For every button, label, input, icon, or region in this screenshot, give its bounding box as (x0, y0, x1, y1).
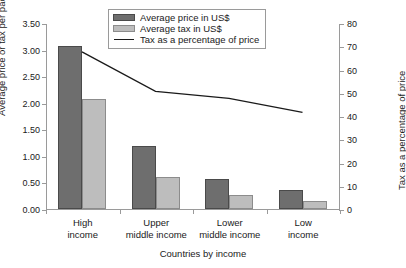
x-axis-title: Countries by income (0, 248, 406, 259)
right-tick (340, 47, 344, 48)
left-tick-label: 2.50 (22, 72, 40, 82)
left-tick-label: 0.50 (22, 178, 40, 188)
right-tick (340, 24, 344, 25)
right-tick-label: 30 (347, 135, 357, 145)
category-label-line: middle income (199, 229, 260, 241)
right-tick-label: 10 (347, 182, 357, 192)
legend-label-tax-percentage: Tax as a percentage of price (140, 34, 259, 45)
category-label-line: Low (288, 217, 319, 229)
category-label: Uppermiddle income (126, 217, 187, 241)
left-tick-label: 1.00 (22, 152, 40, 162)
category-label: Lowermiddle income (199, 217, 260, 241)
right-tick-label: 20 (347, 159, 357, 169)
legend-label-tax: Average tax in US$ (140, 23, 222, 34)
left-tick-label: 3.00 (22, 46, 40, 56)
category-label-line: income (288, 229, 319, 241)
legend-item-tax-percentage: Tax as a percentage of price (113, 34, 259, 45)
right-tick (340, 117, 344, 118)
y-axis-title-left: Average price or tax per pack (US$) (0, 0, 7, 116)
category-label-line: Upper (126, 217, 187, 229)
category-label-line: Lower (199, 217, 260, 229)
tax-percentage-polyline (82, 52, 303, 112)
x-tick (340, 210, 341, 214)
category-label: Highincome (67, 217, 98, 241)
legend-item-average-price: Average price in US$ (113, 12, 259, 23)
legend-swatch-price-icon (113, 14, 135, 21)
plot-area: 0.000.501.001.502.002.503.003.50 0102030… (46, 24, 340, 210)
right-tick-label: 80 (347, 19, 357, 29)
left-tick-label: 0.00 (22, 205, 40, 215)
right-tick (340, 140, 344, 141)
legend-swatch-line-icon (113, 36, 135, 43)
right-tick-label: 70 (347, 42, 357, 52)
y-axis-title-right: Tax as a percentage of price (396, 71, 406, 190)
category-label: Lowincome (288, 217, 319, 241)
right-tick (340, 71, 344, 72)
chart-screenshot: Average price or tax per pack (US$) Tax … (0, 0, 406, 268)
right-tick-label: 40 (347, 112, 357, 122)
category-label-line: High (67, 217, 98, 229)
right-tick (340, 164, 344, 165)
legend-item-average-tax: Average tax in US$ (113, 23, 259, 34)
legend-label-price: Average price in US$ (140, 12, 230, 23)
tax-percentage-line (46, 24, 340, 211)
chart-legend: Average price in US$ Average tax in US$ … (108, 9, 266, 49)
category-label-line: income (67, 229, 98, 241)
category-label-line: middle income (126, 229, 187, 241)
left-tick-label: 3.50 (22, 19, 40, 29)
right-tick-label: 50 (347, 89, 357, 99)
right-tick (340, 187, 344, 188)
left-tick-label: 2.00 (22, 99, 40, 109)
right-tick (340, 94, 344, 95)
right-tick-label: 0 (347, 205, 352, 215)
right-tick-label: 60 (347, 66, 357, 76)
left-tick-label: 1.50 (22, 125, 40, 135)
legend-swatch-tax-icon (113, 25, 135, 32)
